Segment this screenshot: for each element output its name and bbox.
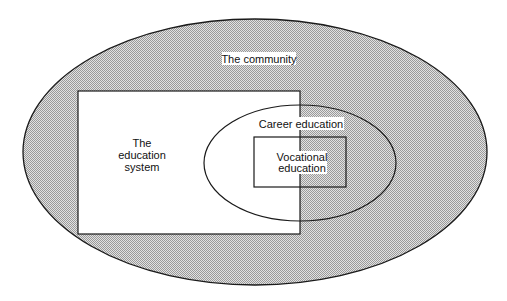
career-education-label: Career education [258, 117, 344, 130]
community-label: The community [221, 52, 297, 65]
career-education-label-text: Career education [259, 118, 343, 130]
education-system-label-line-2: education [118, 149, 166, 161]
education-system-rect [78, 91, 300, 234]
education-system-label-line-3: system [125, 161, 160, 173]
vocational-education-label: Vocational education [277, 151, 328, 174]
vocational-education-label-line-2: education [278, 162, 326, 174]
education-system-label-line-1: The [133, 137, 152, 149]
community-label-text: The community [221, 53, 297, 65]
education-community-diagram: The community The education system Caree… [0, 0, 507, 301]
